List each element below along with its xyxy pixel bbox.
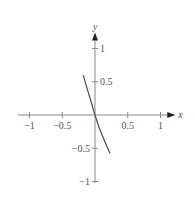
y-tick-label: −0.5 [72,143,90,154]
y-tick-label: 1 [100,43,105,54]
y-axis-arrow-icon [92,33,98,41]
x-tick-label: 0.5 [122,120,135,131]
x-tick-label: −0.5 [53,120,71,131]
x-tick-label: −1 [24,120,35,131]
x-axis-arrow-icon [167,112,175,118]
y-tick-label: −1 [79,176,90,187]
x-tick-label: 1 [158,120,163,131]
y-tick-label: 0.5 [100,76,113,87]
x-axis-label: x [177,109,183,120]
chart: xy −1−0.50.5110.5−0.5−1 [0,0,195,209]
y-axis-label: y [92,21,98,32]
